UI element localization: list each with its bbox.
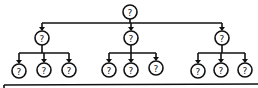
question-mark-label: ? [67,66,72,76]
leaf-node: ? [191,64,205,78]
question-mark-label: ? [243,66,248,76]
tree-diagram: ????????????? [0,0,258,88]
tree-nodes: ????????????? [12,5,252,78]
branch-node: ? [215,31,229,45]
question-mark-label: ? [128,8,133,18]
question-mark-label: ? [129,34,134,44]
question-mark-label: ? [196,67,201,77]
leaf-node: ? [238,63,252,77]
question-mark-label: ? [107,66,112,76]
question-mark-label: ? [154,64,159,74]
leaf-node: ? [102,63,116,77]
leaf-node: ? [12,64,26,78]
question-mark-label: ? [220,34,225,44]
question-mark-label: ? [40,34,45,44]
question-mark-label: ? [129,66,134,76]
question-mark-label: ? [42,66,47,76]
question-mark-label: ? [219,66,224,76]
leaf-node: ? [37,63,51,77]
bottom-box-edge [4,84,258,85]
leaf-node: ? [124,63,138,77]
leaf-node: ? [214,63,228,77]
leaf-node: ? [62,63,76,77]
branch-node: ? [124,31,138,45]
root-node: ? [123,5,137,19]
branch-node: ? [35,31,49,45]
leaf-node: ? [149,61,163,75]
question-mark-label: ? [17,67,22,77]
